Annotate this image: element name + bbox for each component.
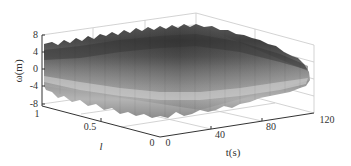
z-tick: -4 <box>30 80 38 91</box>
z-tick: 4 <box>33 46 38 57</box>
l-axis-label: l <box>99 140 102 152</box>
z-tick: 8 <box>33 29 38 40</box>
t-tick: 40 <box>215 129 225 140</box>
z-tick-labels: 8 4 0 -4 -8 <box>30 29 38 109</box>
l-tick: 0.5 <box>84 121 97 132</box>
t-tick: 80 <box>266 121 276 132</box>
z-axis-label: ω(m) <box>12 59 25 82</box>
chart-root: 8 4 0 -4 -8 ω(m) 1 0.5 0 l 0 40 80 120 t… <box>0 0 351 166</box>
t-tick: 120 <box>320 114 335 125</box>
t-axis-label: t(s) <box>226 146 241 159</box>
surface-plot: 8 4 0 -4 -8 ω(m) 1 0.5 0 l 0 40 80 120 t… <box>0 0 351 166</box>
l-tick: 0 <box>150 137 155 148</box>
l-tick: 1 <box>35 108 40 119</box>
t-tick-labels: 0 40 80 120 <box>166 114 335 148</box>
z-tick: 0 <box>33 63 38 74</box>
t-tick: 0 <box>166 137 171 148</box>
